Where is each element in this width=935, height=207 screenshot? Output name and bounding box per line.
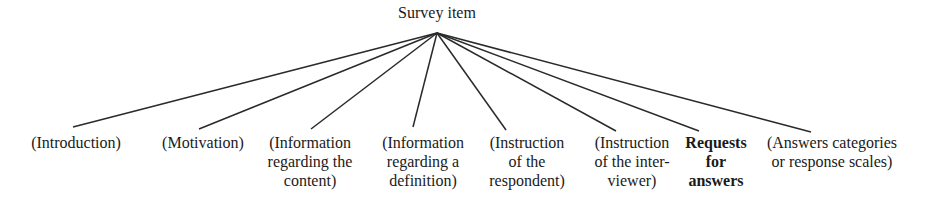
root-node-survey-item: Survey item <box>0 4 874 22</box>
leaf-instruction-respondent: (Instruction of the respondent) <box>477 133 577 190</box>
leaf-motivation: (Motivation) <box>153 133 253 152</box>
leaf-information-definition: (Information regarding a definition) <box>368 133 478 190</box>
connector-line-1 <box>199 33 437 129</box>
leaf-introduction: (Introduction) <box>26 133 126 152</box>
leaf-answer-categories: (Answers categories or response scales) <box>757 133 907 171</box>
connector-line-7 <box>437 33 811 132</box>
leaf-information-content: (Information regarding the content) <box>255 133 365 190</box>
leaf-instruction-interviewer: (Instruction of the inter- viewer) <box>582 133 682 190</box>
connector-line-0 <box>73 33 437 127</box>
connector-line-5 <box>437 33 616 131</box>
leaf-requests-for-answers: Requests for answers <box>681 133 751 190</box>
connector-line-3 <box>413 33 437 127</box>
connector-line-2 <box>311 33 437 129</box>
connector-line-6 <box>437 33 699 131</box>
connector-line-4 <box>437 33 506 130</box>
